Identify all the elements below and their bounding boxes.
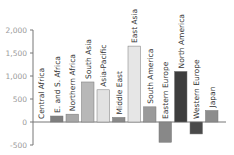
bar — [144, 107, 157, 122]
category-label: Japan — [208, 86, 217, 108]
y-tick-label: 500 — [13, 95, 28, 104]
category-label: North America — [177, 14, 186, 68]
bar — [97, 90, 110, 122]
y-tick-label: 1,000 — [6, 72, 28, 81]
category-label: Central Africa — [37, 68, 46, 119]
y-tick-label: -500 — [10, 141, 27, 150]
bar — [128, 46, 141, 122]
bar — [113, 117, 126, 122]
y-tick-label: 0 — [22, 118, 27, 127]
bar — [190, 122, 203, 134]
bar — [159, 122, 172, 142]
category-label: South Asia — [84, 39, 93, 79]
category-label: East Asia — [130, 9, 139, 43]
category-label: Western Europe — [192, 59, 201, 119]
category-label: Middle East — [115, 71, 124, 114]
category-label: E. and S. Africa — [53, 56, 62, 113]
bar — [206, 111, 219, 123]
category-label: Northern Africa — [68, 54, 77, 111]
y-tick-label: 1,500 — [6, 49, 28, 58]
category-label: Asia-Pacific — [99, 45, 108, 87]
category-labels: Central AfricaE. and S. AfricaNorthern A… — [37, 9, 217, 119]
y-tick-label: 2,000 — [6, 26, 28, 35]
category-label: South America — [146, 49, 155, 104]
category-label: Eastern Europe — [161, 61, 170, 119]
bar — [175, 71, 188, 122]
bar — [82, 82, 95, 122]
bar-chart: 2,0001,5001,0005000-500 Central AfricaE.… — [0, 0, 234, 155]
bar — [66, 114, 79, 122]
bar — [51, 116, 64, 122]
